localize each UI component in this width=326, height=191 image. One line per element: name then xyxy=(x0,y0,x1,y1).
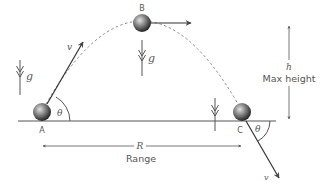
ball-c xyxy=(233,103,251,121)
height-symbol: h xyxy=(286,62,292,72)
point-label-a: A xyxy=(39,126,45,135)
angle-label-impact: θ xyxy=(255,124,261,134)
small-marker-arrow xyxy=(212,98,219,131)
velocity-label-launch: v xyxy=(67,42,72,52)
range-label: Range xyxy=(126,153,156,164)
gravity-arrow-left: g xyxy=(17,60,34,95)
point-label-b: B xyxy=(139,4,145,13)
velocity-arrow-impact xyxy=(246,121,279,178)
velocity-arrow-launch xyxy=(47,42,83,104)
gravity-label-top: g xyxy=(148,52,155,65)
ball-a xyxy=(33,103,51,121)
angle-label-launch: θ xyxy=(57,108,63,118)
height-label: Max height xyxy=(263,73,316,84)
ball-b xyxy=(133,14,151,32)
gravity-label-left: g xyxy=(26,70,33,83)
point-label-c: C xyxy=(237,126,243,135)
range-symbol: R xyxy=(136,141,144,151)
projectile-diagram: g g v θ A B C v θ R Range h M xyxy=(0,0,326,191)
gravity-arrow-top: g xyxy=(139,40,156,76)
velocity-label-impact: v xyxy=(264,173,269,182)
